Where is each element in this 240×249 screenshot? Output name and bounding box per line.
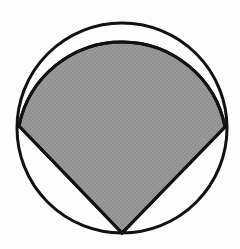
- figure-svg: [0, 0, 240, 249]
- geometry-figure-canvas: [0, 0, 240, 249]
